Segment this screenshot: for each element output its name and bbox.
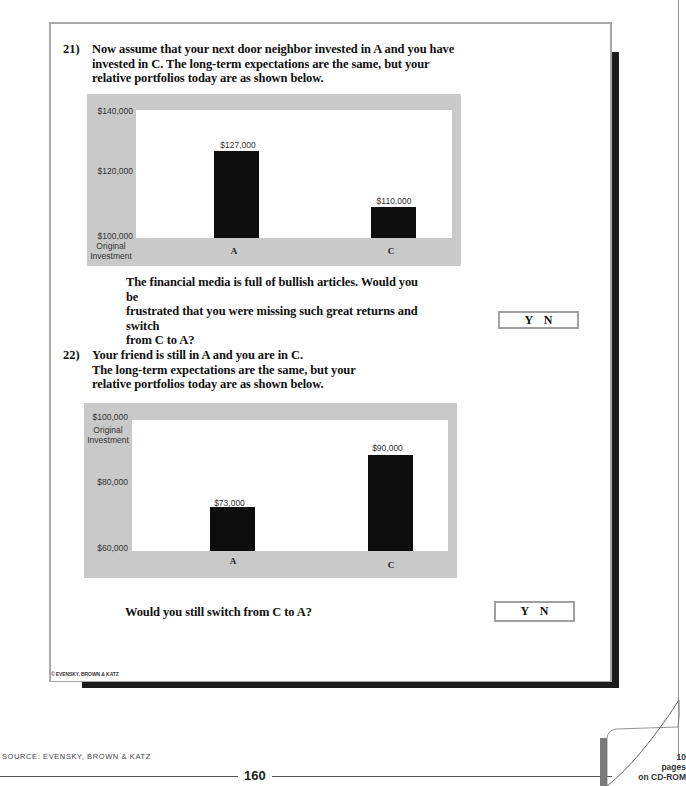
bar-a [214,151,259,238]
question-21-prompt-line: from C to A? [126,333,426,348]
frame-shadow-bottom [82,682,619,688]
y-tick-label: $100,000 [84,412,128,422]
original-investment-line: Original [87,241,135,251]
footer-rule [0,776,612,777]
category-label-c: C [381,560,401,570]
question-22-intro-line: Your friend is still in A and you are in… [92,348,512,363]
chart-q21: $127,000 $110,000 $140,000 $120,000 $100… [87,94,461,266]
cd-rom-badge: 10 pages on CD-ROM [630,752,686,782]
question-21-intro-line: invested in C. The long-term expectation… [92,57,512,72]
question-22-prompt-line: Would you still switch from C to A? [125,605,425,620]
original-investment-line: Investment [84,435,132,445]
question-22-number: 22) [63,348,80,363]
question-21-prompt-line: The financial media is full of bullish a… [126,275,426,304]
question-22-intro-line: relative portfolios today are as shown b… [92,377,512,392]
chart-q22-plot-area: $73,000 $90,000 [132,420,448,551]
y-tick-label: $80,000 [84,477,128,487]
page-number: 160 [238,768,272,783]
question-21-intro-line: Now assume that your next door neighbor … [92,42,512,57]
bar-c-value-label: $90,000 [355,443,420,453]
category-label-a: A [224,246,244,256]
yes-no-answer-box-q22[interactable]: Y N [494,601,575,622]
question-21-prompt-line: frustrated that you were missing such gr… [126,304,426,333]
bar-c [371,207,416,238]
yes-no-answer-box-q21[interactable]: Y N [498,311,579,329]
bar-c [368,455,413,551]
bar-a [210,507,255,551]
cd-rom-pages: pages [630,762,686,772]
chart-q22: $73,000 $90,000 $100,000 Original Invest… [84,403,457,578]
question-22-intro-line: The long-term expectations are the same,… [92,363,512,378]
bar-a-value-label: $127,000 [203,140,273,150]
question-21-intro-line: relative portfolios today are as shown b… [92,71,512,86]
cd-rom-count: 10 [630,752,686,762]
copyright-notice: © EVENSKY, BROWN & KATZ [51,671,119,677]
chart-q21-plot-area: $127,000 $110,000 [136,110,452,238]
question-21-number: 21) [63,42,80,57]
question-21-prompt: The financial media is full of bullish a… [126,275,426,348]
bar-c-value-label: $110,000 [359,196,429,206]
y-tick-label: $100,000 [87,231,133,241]
category-label-a: A [223,556,243,566]
original-investment-label: Original Investment [87,241,135,261]
source-credit: SOURCE: EVENSKY, BROWN & KATZ [2,752,151,761]
y-tick-label: $60,000 [84,543,128,553]
original-investment-line: Original [84,425,132,435]
question-22-prompt: Would you still switch from C to A? [125,605,425,620]
cd-rom-location: on CD-ROM [630,772,686,782]
frame-shadow-right [612,52,619,688]
original-investment-line: Investment [87,251,135,261]
page-edge-line [678,0,679,760]
question-22-intro: Your friend is still in A and you are in… [92,348,512,392]
question-21-intro: Now assume that your next door neighbor … [92,42,512,86]
y-tick-label: $140,000 [87,106,133,116]
y-tick-label: $120,000 [87,166,133,176]
category-label-c: C [381,246,401,256]
original-investment-label: Original Investment [84,425,132,445]
